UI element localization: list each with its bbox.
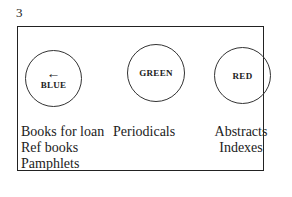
green-items: Periodicals [113,124,175,140]
item-indexes: Indexes [199,140,283,156]
red-label: RED [233,71,253,81]
blue-zone-circle: ← BLUE [25,50,82,107]
red-items: Abstracts Indexes [199,124,283,156]
item-pamphlets: Pamphlets [21,156,104,172]
arrow-left-icon: ← [47,68,61,80]
green-zone-circle: GREEN [127,44,185,102]
item-books-for-loan: Books for loan [21,124,104,140]
item-abstracts: Abstracts [199,124,283,140]
blue-items: Books for loan Ref books Pamphlets [21,124,104,172]
blue-label: BLUE [41,80,67,90]
green-label: GREEN [139,68,173,78]
figure-number: 3 [16,5,23,21]
item-periodicals: Periodicals [113,124,175,140]
red-zone-circle: RED [214,47,271,104]
item-ref-books: Ref books [21,140,104,156]
